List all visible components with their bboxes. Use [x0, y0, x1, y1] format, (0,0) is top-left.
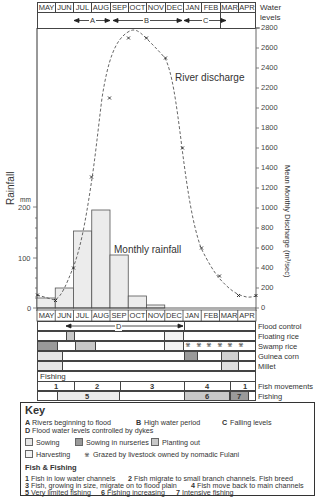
discharge-tick: 600 — [261, 243, 274, 252]
sowing-nurseries-fill — [184, 352, 198, 360]
discharge-axis-title: Mean Monthly Discharge (m³/sec) — [283, 165, 292, 305]
key-c-text: Falling levels — [230, 418, 272, 427]
key-grazed: Grazed by livestock owned by nomadic Ful… — [93, 450, 239, 459]
row-label: Swamp rice — [258, 342, 297, 351]
fish-movement-code: 2 — [95, 382, 99, 391]
key-title: Key — [25, 404, 45, 416]
month-label: APR — [238, 311, 256, 320]
key-d-code: D — [25, 426, 30, 435]
sowing-fill — [38, 352, 63, 360]
harvesting-fill — [164, 332, 184, 340]
key-f7-text: Intensive fishing — [182, 488, 234, 497]
row-label: Guinea corn — [258, 352, 299, 361]
sowing-swatch — [25, 438, 33, 446]
key-planting-out: Planting out — [162, 438, 200, 447]
rainfall-bars — [37, 210, 165, 308]
row-label: Fish movements — [258, 382, 313, 391]
fish-movement-code: 1 — [243, 382, 247, 391]
grazing-icons: ⋇⋇⋇⋇⋇⋇ — [185, 341, 248, 349]
row-guinea-corn — [37, 351, 256, 361]
key-f6-text: Fishing increasing — [107, 488, 165, 497]
row-label: Floating rice — [258, 332, 299, 341]
key-sowing: Sowing — [36, 438, 60, 447]
period-a-label: A — [89, 16, 96, 25]
key-d-text: Flood water levels controlled by dykes — [32, 426, 153, 435]
row-label: Millet — [258, 362, 276, 371]
sowing-nurseries-swatch — [75, 438, 83, 446]
sowing-nurseries-fill — [38, 342, 58, 350]
fishing-code: 6 — [205, 392, 209, 401]
fish-movement-code: 1 — [54, 382, 58, 391]
row-label: Fishing — [258, 392, 282, 401]
key-harvesting: Harvesting — [36, 450, 70, 459]
discharge-tick: 1600 — [261, 143, 278, 152]
fish-movement-code: 4 — [205, 382, 209, 391]
key-f7-code: 7 — [176, 488, 180, 497]
key-f5-text: Very limited fishing — [31, 488, 91, 497]
discharge-tick: 400 — [261, 263, 274, 272]
grass-tuft-icon: ⋇ — [84, 450, 90, 459]
discharge-tick: 1400 — [261, 163, 278, 172]
planting-out-fill — [221, 352, 239, 360]
row-millet — [37, 361, 256, 371]
rainfall-tick: 200 — [18, 203, 31, 212]
discharge-tick: 200 — [261, 283, 274, 292]
month-label: DEC — [165, 311, 183, 320]
month-label: AUG — [92, 311, 110, 320]
bottom-month-row: MAY JUN JUL AUG SEP OCT NOV DEC JAN FEB … — [37, 311, 256, 321]
key-sowing-nurseries: Sowing in nurseries — [86, 438, 149, 447]
month-label: FEB — [202, 311, 220, 320]
month-label: MAY — [38, 311, 55, 320]
fishing-code: 7 — [237, 392, 241, 401]
row-floating-rice — [37, 331, 256, 341]
harvesting-fill — [164, 342, 184, 350]
row-fish-movements: 1 2 3 4 1 — [37, 381, 256, 391]
discharge-tick: 2800 — [261, 23, 278, 32]
key-fish-title: Fish & Fishing — [25, 463, 77, 472]
row-fishing: 5 6 7 — [37, 391, 256, 401]
harvesting-swatch — [25, 450, 33, 458]
fishing-header-label: Fishing — [40, 372, 66, 381]
rainfall-unit: mm — [20, 196, 31, 203]
monthly-rainfall-label: Monthly rainfall — [114, 244, 181, 255]
rainfall-tick: 100 — [18, 254, 31, 263]
month-label: JAN — [183, 311, 201, 320]
period-b-label: B — [143, 16, 150, 25]
row-label: Flood control — [258, 322, 301, 331]
harvesting-fill — [221, 362, 239, 370]
discharge-tick: 1000 — [261, 203, 278, 212]
rainfall-axis-title: Rainfall — [5, 172, 16, 205]
key-c-code: C — [222, 418, 227, 427]
key-f6-code: 6 — [101, 488, 105, 497]
discharge-tick: 2400 — [261, 63, 278, 72]
fish-movement-code: 3 — [150, 382, 154, 391]
fishing-code: 5 — [85, 392, 89, 401]
period-c-label: C — [202, 16, 209, 25]
planting-out-swatch — [151, 438, 159, 446]
month-label: NOV — [147, 311, 165, 320]
discharge-tick: 1200 — [261, 183, 278, 192]
sowing-fill — [38, 362, 63, 370]
planting-out-fill — [66, 332, 75, 340]
row-fishing-header: Fishing — [37, 371, 256, 381]
discharge-tick: 800 — [261, 223, 274, 232]
period-d-label: D — [115, 322, 122, 331]
discharge-tick: 1800 — [261, 123, 278, 132]
month-label: MAR — [220, 311, 238, 320]
month-label: OCT — [129, 311, 146, 320]
month-label: JUN — [56, 311, 73, 320]
discharge-curve — [37, 30, 256, 300]
month-label: JUL — [74, 311, 91, 320]
discharge-tick: 2200 — [261, 83, 278, 92]
river-discharge-label: River discharge — [175, 72, 244, 83]
key-f5-code: 5 — [25, 488, 29, 497]
month-label: SEP — [110, 311, 128, 320]
planting-out-fill — [75, 342, 96, 350]
key-panel: Key A Rivers beginning to flood B High w… — [20, 402, 315, 496]
discharge-tick: 0 — [261, 303, 265, 312]
discharge-tick: 2000 — [261, 103, 278, 112]
discharge-tick: 2600 — [261, 43, 278, 52]
rainfall-tick: 0 — [27, 304, 31, 313]
